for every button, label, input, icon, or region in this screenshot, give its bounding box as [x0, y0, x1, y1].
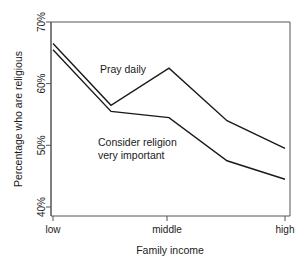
x-tick-label-low: low [45, 224, 61, 235]
chart-figure: 70% 60% 50% 40% Percentage who are relig… [0, 0, 306, 265]
y-tick-label-40: 40% [36, 197, 47, 217]
series-annotation-consider-religion-line2: very important [98, 149, 165, 161]
x-tick-label-middle: middle [152, 224, 182, 235]
series-annotation-consider-religion-line1: Consider religion [98, 136, 177, 148]
y-tick-label-50: 50% [36, 135, 47, 155]
y-tick-label-70: 70% [36, 12, 47, 32]
series-annotation-pray-daily: Pray daily [100, 63, 147, 75]
line-chart-svg: 70% 60% 50% 40% Percentage who are relig… [0, 0, 306, 265]
x-tick-label-high: high [276, 224, 295, 235]
y-axis-title: Percentage who are religious [12, 51, 24, 187]
x-axis-title: Family income [136, 244, 204, 256]
y-tick-label-60: 60% [36, 73, 47, 93]
